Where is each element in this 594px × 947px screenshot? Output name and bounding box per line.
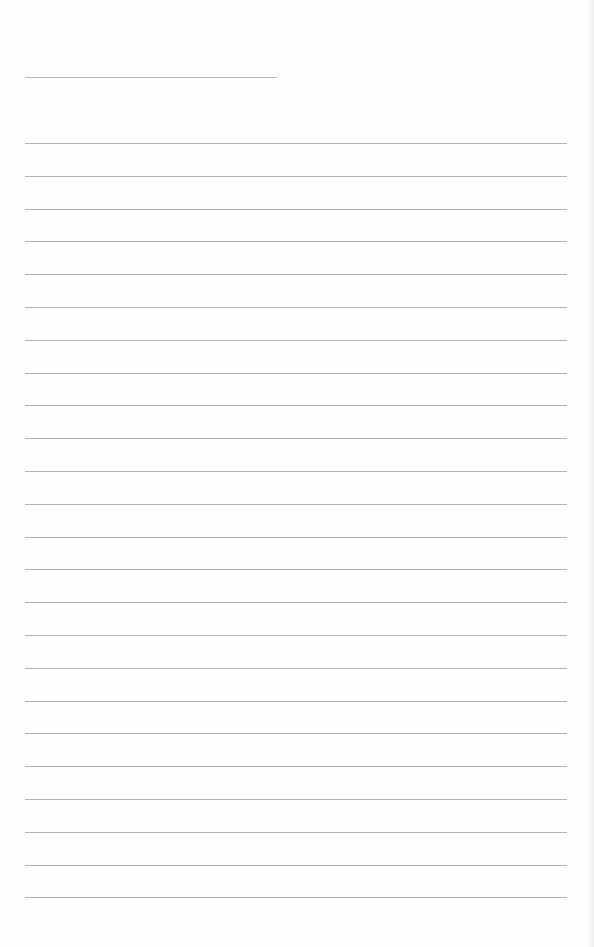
ruled-line: [25, 635, 567, 636]
ruled-line: [25, 241, 567, 242]
ruled-line: [25, 668, 567, 669]
header-name-line: [25, 77, 277, 78]
ruled-line: [25, 373, 567, 374]
ruled-line: [25, 438, 567, 439]
ruled-line: [25, 569, 567, 570]
ruled-line: [25, 766, 567, 767]
ruled-line: [25, 340, 567, 341]
ruled-line: [25, 701, 567, 702]
lined-paper-page: [0, 0, 594, 947]
ruled-line: [25, 274, 567, 275]
ruled-line: [25, 143, 567, 144]
ruled-line: [25, 209, 567, 210]
ruled-line: [25, 799, 567, 800]
page-edge-shadow: [588, 0, 594, 947]
ruled-line: [25, 471, 567, 472]
bleed-through-text: [200, 2, 580, 18]
ruled-line: [25, 504, 567, 505]
ruled-line: [25, 307, 567, 308]
ruled-line: [25, 176, 567, 177]
ruled-line: [25, 537, 567, 538]
ruled-line: [25, 602, 567, 603]
ruled-line: [25, 405, 567, 406]
ruled-line: [25, 897, 567, 898]
ruled-line: [25, 865, 567, 866]
ruled-line: [25, 832, 567, 833]
ruled-line: [25, 733, 567, 734]
